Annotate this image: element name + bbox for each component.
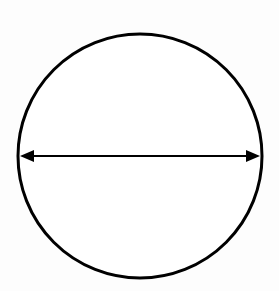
diagram-canvas — [0, 0, 279, 291]
circle-diagram — [0, 0, 279, 291]
